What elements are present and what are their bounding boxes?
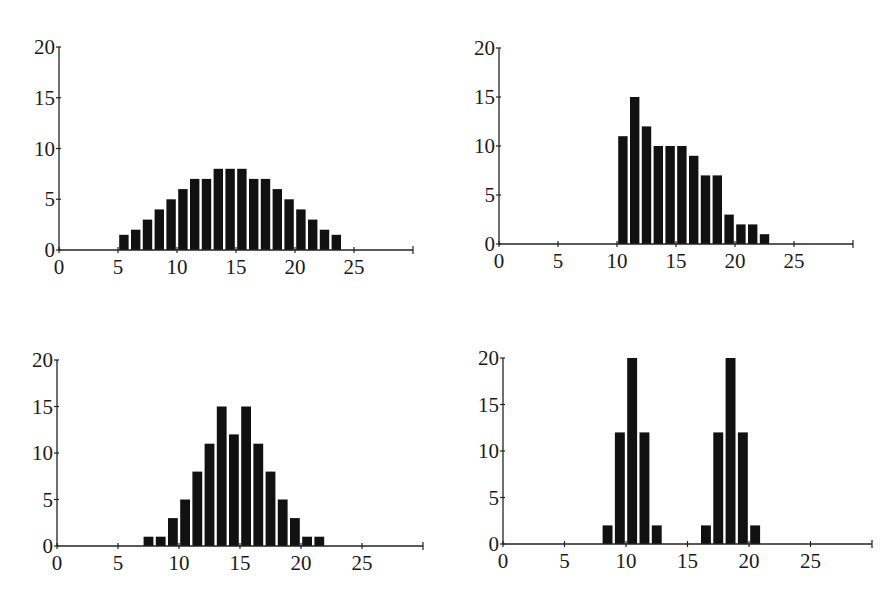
y-tick-label: 20: [478, 346, 499, 370]
bar: [640, 432, 650, 544]
bar: [180, 500, 190, 547]
bar: [190, 179, 199, 250]
bar: [701, 175, 710, 244]
bar: [713, 432, 723, 544]
y-tick-label: 15: [34, 86, 55, 110]
bar: [144, 537, 154, 546]
x-tick-label: 5: [113, 551, 124, 575]
bar: [237, 169, 246, 250]
bars: [618, 97, 769, 244]
y-tick-label: 10: [478, 439, 499, 463]
bar: [760, 234, 769, 244]
bar: [131, 230, 140, 250]
bar: [627, 358, 637, 544]
y-tick-label: 20: [474, 36, 495, 60]
x-tick-label: 0: [52, 551, 63, 575]
bar: [713, 175, 722, 244]
bar: [314, 537, 324, 546]
x-tick-label: 5: [553, 249, 564, 273]
bar: [652, 525, 662, 544]
bar: [253, 444, 263, 546]
x-tick-label: 15: [666, 249, 687, 273]
bar: [724, 215, 733, 244]
bar: [302, 537, 312, 546]
x-tick-label: 10: [607, 249, 628, 273]
bar: [750, 525, 760, 544]
bar: [642, 126, 651, 244]
bars: [144, 407, 325, 547]
bar: [615, 432, 625, 544]
y-tick-label: 20: [32, 348, 53, 372]
y-tick-label: 20: [34, 35, 55, 59]
bar: [320, 230, 329, 250]
bar: [284, 199, 293, 250]
x-tick-label: 25: [800, 549, 821, 573]
y-tick-label: 5: [45, 187, 56, 211]
bar: [630, 97, 639, 244]
y-tick-label: 10: [474, 134, 495, 158]
x-tick-label: 15: [226, 255, 247, 279]
chart-bottom-right: 051015200510152025: [478, 346, 872, 573]
bar: [689, 156, 698, 244]
x-tick-label: 20: [285, 255, 306, 279]
bar: [119, 235, 128, 250]
bar: [296, 209, 305, 250]
bar: [229, 434, 239, 546]
x-tick-label: 5: [559, 549, 570, 573]
x-tick-label: 0: [498, 549, 509, 573]
x-tick-label: 0: [494, 249, 505, 273]
x-tick-label: 15: [677, 549, 698, 573]
y-tick-label: 10: [32, 441, 53, 465]
bar: [738, 432, 748, 544]
x-tick-label: 10: [169, 551, 190, 575]
x-tick-label: 20: [291, 551, 312, 575]
x-tick-label: 0: [54, 255, 65, 279]
bar: [155, 209, 164, 250]
x-tick-label: 25: [784, 249, 805, 273]
chart-top-right: 051015200510152025: [474, 36, 853, 273]
chart-bottom-left: 051015200510152025: [32, 348, 423, 575]
y-tick-label: 5: [489, 486, 500, 510]
bar: [166, 199, 175, 250]
bar: [249, 179, 258, 250]
y-tick-label: 15: [474, 85, 495, 109]
bar: [266, 472, 276, 546]
bar: [178, 189, 187, 250]
bars: [119, 169, 341, 250]
bars: [603, 358, 761, 544]
x-tick-label: 25: [352, 551, 373, 575]
bar: [726, 358, 736, 544]
bar: [261, 179, 270, 250]
y-tick-label: 15: [32, 395, 53, 419]
bar: [241, 407, 251, 547]
y-tick-label: 15: [478, 393, 499, 417]
bar: [214, 169, 223, 250]
bar: [217, 407, 227, 547]
bar: [273, 189, 282, 250]
bar: [143, 220, 152, 251]
bar: [332, 235, 341, 250]
bar: [618, 136, 627, 244]
x-tick-label: 20: [739, 549, 760, 573]
bar: [308, 220, 317, 251]
bar: [748, 224, 757, 244]
x-tick-label: 10: [167, 255, 188, 279]
y-tick-label: 10: [34, 137, 55, 161]
x-tick-label: 10: [616, 549, 637, 573]
bar: [603, 525, 613, 544]
bar: [736, 224, 745, 244]
bar: [225, 169, 234, 250]
chart-top-left: 051015200510152025: [34, 35, 413, 279]
bar: [677, 146, 686, 244]
bar: [168, 518, 178, 546]
x-tick-label: 25: [344, 255, 365, 279]
bar: [665, 146, 674, 244]
bar: [205, 444, 215, 546]
bar: [701, 525, 711, 544]
bar: [202, 179, 211, 250]
x-tick-label: 5: [113, 255, 124, 279]
x-tick-label: 20: [725, 249, 746, 273]
bar: [156, 537, 166, 546]
y-tick-label: 5: [485, 183, 496, 207]
x-tick-label: 15: [230, 551, 251, 575]
